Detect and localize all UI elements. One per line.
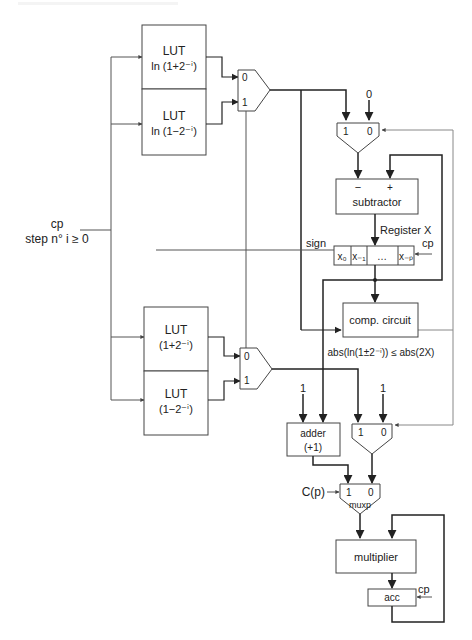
const-zero: 0 — [366, 88, 372, 100]
svg-text:LUT: LUT — [165, 387, 188, 401]
svg-text:0: 0 — [242, 72, 248, 83]
svg-text:1: 1 — [242, 97, 248, 108]
datapath-diagram: cp step n° i ≥ 0 LUT ln (1+2⁻ⁱ) LUT ln (… — [0, 0, 472, 640]
svg-text:−: − — [355, 181, 361, 193]
mux-subtractor-input: 1 0 — [337, 123, 379, 153]
svg-text:multiplier: multiplier — [354, 551, 398, 563]
subtractor: − + subtractor — [336, 179, 418, 214]
adder-const: 1 — [300, 382, 306, 394]
register-cp-label: cp — [422, 237, 434, 249]
svg-text:1: 1 — [244, 375, 250, 386]
sign-label: sign — [306, 237, 326, 249]
mux-top: 0 1 — [238, 70, 270, 111]
lut-minus: LUT (1−2⁻ⁱ) — [144, 371, 208, 435]
comp-condition: abs(ln(1±2⁻ⁱ)) ≤ abs(2X) — [328, 347, 435, 358]
svg-text:x₋ₚ: x₋ₚ — [399, 251, 413, 262]
cp-label: cp — [51, 217, 64, 231]
svg-text:x₀: x₀ — [337, 251, 346, 262]
svg-text:subtractor: subtractor — [353, 196, 402, 208]
svg-text:1: 1 — [343, 126, 349, 137]
register-x-label: Register X — [380, 224, 432, 236]
acc-cp-label: cp — [418, 583, 430, 595]
svg-text:0: 0 — [367, 126, 373, 137]
svg-text:x₋₁: x₋₁ — [352, 251, 366, 262]
svg-text:+: + — [387, 182, 393, 193]
svg-text:0: 0 — [368, 487, 374, 498]
svg-text:(+1): (+1) — [304, 442, 322, 453]
svg-text:0: 0 — [244, 351, 250, 362]
mux-multiplier-input: 1 0 — [352, 424, 392, 454]
step-label: step n° i ≥ 0 — [25, 232, 89, 246]
svg-text:ln (1−2⁻ⁱ): ln (1−2⁻ⁱ) — [151, 125, 197, 137]
cp-step-input: cp step n° i ≥ 0 — [25, 57, 144, 400]
svg-text:LUT: LUT — [165, 323, 188, 337]
svg-text:muxp: muxp — [349, 500, 371, 510]
svg-text:LUT: LUT — [163, 109, 186, 123]
svg-text:(1−2⁻ⁱ): (1−2⁻ⁱ) — [159, 403, 193, 415]
mux-mult-const: 1 — [380, 382, 386, 394]
svg-text:LUT: LUT — [163, 44, 186, 58]
mux-bottom: 0 1 — [240, 348, 272, 389]
lut-ln-plus: LUT ln (1+2⁻ⁱ) — [142, 25, 206, 89]
svg-text:0: 0 — [381, 427, 387, 438]
svg-text:1: 1 — [358, 427, 364, 438]
muxp: 1 0 muxp — [340, 484, 380, 514]
svg-text:comp. circuit: comp. circuit — [349, 314, 411, 326]
accumulator: acc — [368, 589, 416, 606]
svg-text:acc: acc — [384, 592, 400, 603]
multiplier: multiplier — [336, 540, 416, 573]
adder: adder (+1) — [287, 423, 340, 456]
svg-text:(1+2⁻ⁱ): (1+2⁻ⁱ) — [159, 339, 193, 351]
register-x: x₀ x₋₁ … x₋ₚ — [334, 246, 414, 265]
svg-text:adder: adder — [300, 428, 326, 439]
comp-circuit: comp. circuit — [343, 303, 418, 337]
svg-text:1: 1 — [346, 487, 352, 498]
lut-ln-minus: LUT ln (1−2⁻ⁱ) — [142, 89, 206, 155]
svg-text:…: … — [377, 251, 387, 262]
svg-text:ln (1+2⁻ⁱ): ln (1+2⁻ⁱ) — [151, 60, 197, 72]
c-p-label: C(p) — [302, 485, 325, 499]
lut-plus: LUT (1+2⁻ⁱ) — [144, 307, 208, 371]
